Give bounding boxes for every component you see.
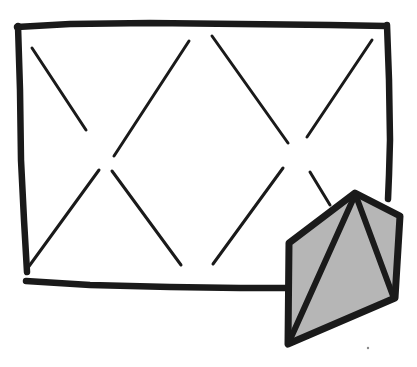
- left-edge: [18, 26, 27, 272]
- sketch-canvas: [0, 0, 417, 367]
- hatch-line-4: [307, 40, 372, 137]
- hatch-line-1: [32, 48, 86, 130]
- hatch-line-7: [213, 168, 283, 264]
- stray-speck: [367, 347, 369, 349]
- bottom-edge: [26, 281, 286, 288]
- right-edge: [387, 25, 390, 199]
- top-edge: [17, 23, 386, 27]
- sketch-drawing: [0, 0, 417, 367]
- shaded-pyramid: [288, 193, 400, 344]
- hatch-line-5: [27, 170, 99, 269]
- hatch-line-2: [114, 41, 189, 156]
- hatch-line-6: [112, 171, 181, 265]
- hatch-line-8: [310, 172, 330, 205]
- hatch-line-3: [212, 36, 288, 143]
